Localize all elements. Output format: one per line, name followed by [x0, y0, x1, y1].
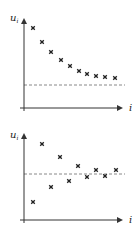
y-axis-label: ui — [10, 130, 18, 143]
data-point-marker — [76, 164, 80, 168]
data-point-marker — [49, 50, 53, 54]
data-point-marker — [113, 76, 117, 80]
plot-decreasing-canvas — [0, 0, 138, 119]
data-point-marker — [58, 155, 62, 159]
data-point-marker — [40, 40, 44, 44]
y-axis-arrow-icon — [21, 18, 27, 24]
x-axis-label: i — [129, 215, 132, 225]
data-point-marker — [68, 64, 72, 68]
plot-oscillating: ui i — [0, 118, 138, 237]
y-axis-arrow-icon — [21, 133, 27, 139]
data-point-marker — [103, 174, 107, 178]
data-point-marker — [85, 175, 89, 179]
data-point-marker — [77, 69, 81, 73]
x-axis-label: i — [129, 103, 132, 113]
data-point-marker — [49, 185, 53, 189]
y-axis-label: ui — [10, 13, 18, 26]
data-point-marker — [31, 200, 35, 204]
plot-oscillating-canvas — [0, 118, 138, 238]
data-point-marker — [31, 26, 35, 30]
plot-decreasing: ui i — [0, 0, 138, 119]
data-point-marker — [67, 179, 71, 183]
data-point-marker — [85, 72, 89, 76]
data-point-marker — [59, 58, 63, 62]
data-point-marker — [114, 168, 118, 172]
data-point-marker — [94, 74, 98, 78]
data-point-marker — [94, 168, 98, 172]
data-point-marker — [103, 75, 107, 79]
x-axis-arrow-icon — [117, 105, 123, 111]
x-axis-arrow-icon — [117, 217, 123, 223]
data-point-marker — [40, 142, 44, 146]
